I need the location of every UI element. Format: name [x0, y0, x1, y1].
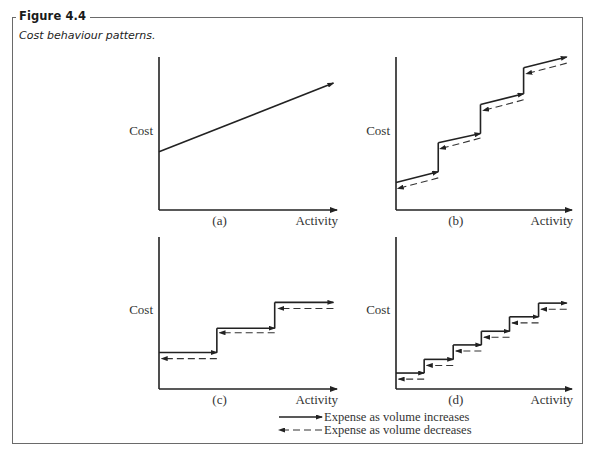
panel-label: (c) — [212, 392, 226, 407]
decrease-segment — [398, 178, 438, 189]
panel-label: (d) — [448, 392, 463, 407]
panel-a: CostActivity(a) — [129, 57, 338, 228]
increase-segment — [524, 57, 567, 68]
increase-segment — [396, 172, 438, 183]
x-axis-label: Activity — [530, 213, 573, 228]
panel-label: (a) — [212, 213, 226, 228]
panel-label: (b) — [448, 213, 463, 228]
decrease-segment — [440, 138, 480, 149]
panel-c: CostActivity(c) — [129, 237, 338, 407]
y-axis-label: Cost — [366, 123, 390, 138]
cost-behaviour-diagram: CostActivity(a)CostActivity(b)CostActivi… — [0, 0, 594, 462]
y-axis-label: Cost — [129, 302, 153, 317]
legend-decrease-label: Expense as volume decreases — [324, 423, 472, 437]
x-axis-label: Activity — [295, 392, 338, 407]
legend-increase-label: Expense as volume increases — [324, 410, 470, 424]
y-axis-label: Cost — [366, 302, 390, 317]
legend: Expense as volume increases Expense as v… — [279, 410, 472, 437]
increase-segment — [480, 94, 523, 105]
panel-b: CostActivity(b) — [366, 57, 573, 228]
x-axis-label: Activity — [530, 392, 573, 407]
x-axis-label: Activity — [295, 213, 338, 228]
panel-d: CostActivity(d) — [366, 237, 573, 407]
y-axis-label: Cost — [129, 123, 153, 138]
increase-segment — [159, 83, 333, 152]
increase-segment — [438, 134, 480, 143]
